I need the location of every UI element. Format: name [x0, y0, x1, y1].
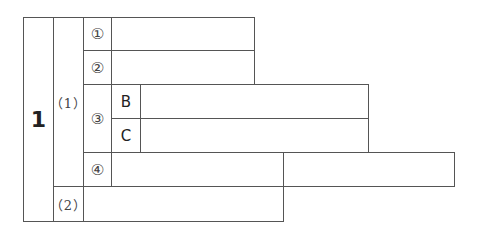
sub-item-c-label: C	[121, 127, 131, 145]
subquestion-2-label: （2）	[50, 195, 87, 214]
answer-subquestion-2[interactable]	[83, 186, 284, 222]
question-1-label-cell: 1	[23, 17, 54, 222]
answer-sub-item-b[interactable]	[140, 84, 369, 119]
answer-item-4-b[interactable]	[283, 152, 455, 187]
item-1-label-cell: ①	[83, 17, 112, 51]
sub-item-b-label: B	[121, 93, 131, 111]
subquestion-2-label-cell: （2）	[53, 186, 84, 222]
subquestion-1-label-cell: （1）	[53, 17, 84, 187]
answer-item-4-a[interactable]	[111, 152, 284, 187]
item-4-label: ④	[91, 161, 104, 179]
item-2-label-cell: ②	[83, 50, 112, 85]
item-4-label-cell: ④	[83, 152, 112, 187]
subquestion-1-label: （1）	[50, 93, 87, 112]
answer-item-1[interactable]	[111, 17, 255, 51]
question-1-label: 1	[31, 107, 46, 132]
sub-item-b-label-cell: B	[111, 84, 141, 119]
item-3-label-cell: ③	[83, 84, 112, 153]
item-2-label: ②	[91, 59, 104, 77]
sub-item-c-label-cell: C	[111, 118, 141, 153]
item-3-label: ③	[91, 110, 104, 128]
item-1-label: ①	[91, 25, 104, 43]
answer-sub-item-c[interactable]	[140, 118, 369, 153]
answer-item-2[interactable]	[111, 50, 255, 85]
